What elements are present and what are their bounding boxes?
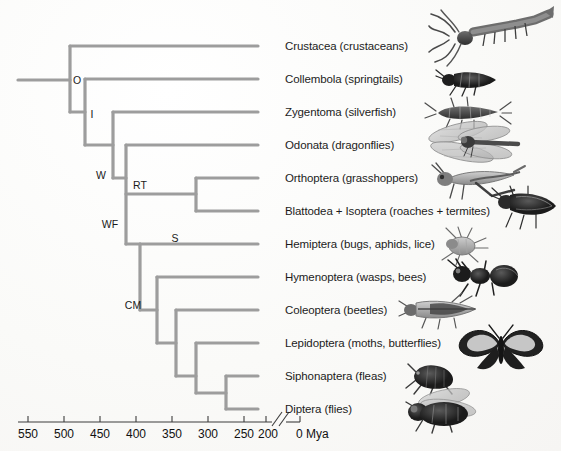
axis-label-300: 300 bbox=[198, 427, 218, 441]
tip-label-blattodea: Blattodea + Isoptera (roaches + termites… bbox=[285, 205, 490, 217]
tip-label-odonata: Odonata (dragonflies) bbox=[285, 139, 394, 151]
node-label-RT: RT bbox=[133, 179, 147, 191]
tip-label-hymenoptera: Hymenoptera (wasps, bees) bbox=[285, 271, 426, 283]
node-label-W: W bbox=[96, 169, 106, 181]
tip-label-coleoptera: Coleoptera (beetles) bbox=[285, 304, 387, 316]
tip-label-hemiptera: Hemiptera (bugs, aphids, lice) bbox=[285, 238, 435, 250]
figure-canvas: Crustacea (crustaceans) Collembola (spri… bbox=[0, 0, 561, 451]
node-label-O: O bbox=[73, 74, 81, 86]
tip-label-zygentoma: Zygentoma (silverfish) bbox=[285, 106, 396, 118]
axis-label-450: 450 bbox=[90, 427, 110, 441]
tip-label-lepidoptera: Lepidoptera (moths, butterflies) bbox=[285, 337, 441, 349]
axis-label-200: 200 bbox=[258, 427, 278, 441]
axis-label-550: 550 bbox=[18, 427, 38, 441]
tip-label-collembola: Collembola (springtails) bbox=[285, 73, 403, 85]
time-axis bbox=[18, 412, 300, 426]
axis-label-500: 500 bbox=[54, 427, 74, 441]
tip-label-siphonaptera: Siphonaptera (fleas) bbox=[285, 370, 387, 382]
phylogenetic-tree-branches bbox=[0, 0, 561, 451]
axis-label-250: 250 bbox=[234, 427, 254, 441]
axis-label-350: 350 bbox=[162, 427, 182, 441]
tip-label-orthoptera: Orthoptera (grasshoppers) bbox=[285, 172, 418, 184]
axis-label-zero-mya: 0 Mya bbox=[296, 427, 329, 441]
node-label-S: S bbox=[171, 232, 178, 244]
node-label-I: I bbox=[91, 108, 94, 120]
tip-label-crustacea: Crustacea (crustaceans) bbox=[285, 40, 408, 52]
axis-label-400: 400 bbox=[126, 427, 146, 441]
node-label-CM: CM bbox=[125, 299, 141, 311]
tip-label-diptera: Diptera (flies) bbox=[285, 403, 352, 415]
node-label-WF: WF bbox=[102, 218, 118, 230]
